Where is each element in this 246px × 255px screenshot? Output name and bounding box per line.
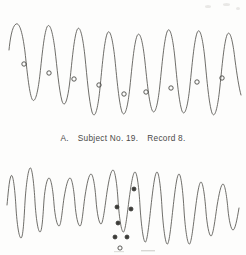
caption-subject: Subject No. 19. bbox=[78, 133, 138, 143]
panel-b-marker-6 bbox=[125, 235, 129, 239]
panel-b-markers bbox=[113, 187, 136, 250]
panel-a-marker-7 bbox=[169, 86, 173, 90]
panel-b-trace-line bbox=[7, 168, 239, 244]
panel-a-marker-1 bbox=[22, 62, 26, 66]
panel-b-marker-1 bbox=[132, 187, 136, 191]
panel-a-marker-8 bbox=[195, 80, 199, 84]
caption-label: A. bbox=[60, 133, 68, 143]
panel-a-marker-3 bbox=[72, 77, 76, 81]
panel-b-marker-4 bbox=[116, 221, 120, 225]
scan-speck bbox=[236, 7, 240, 10]
panel-a-trace-line bbox=[9, 24, 241, 115]
scan-speck bbox=[205, 5, 211, 8]
panel-b-waveform-chart bbox=[0, 150, 246, 255]
panel-a-marker-5 bbox=[122, 92, 126, 96]
panel-b-marker-5 bbox=[113, 235, 117, 239]
panel-a-marker-6 bbox=[144, 90, 148, 94]
caption-space-2 bbox=[138, 133, 147, 143]
panel-b-marker-7 bbox=[118, 246, 122, 250]
panel-b-marker-2 bbox=[115, 205, 119, 209]
panel-b-marker-3 bbox=[129, 207, 133, 211]
figure-root: A. Subject No. 19. Record 8. bbox=[0, 0, 246, 255]
caption-record: Record 8. bbox=[147, 133, 185, 143]
caption-space-1 bbox=[69, 133, 78, 143]
figure-caption: A. Subject No. 19. Record 8. bbox=[0, 133, 246, 143]
scan-speck bbox=[223, 3, 230, 6]
panel-a-marker-2 bbox=[47, 71, 51, 75]
panel-a-waveform-chart bbox=[0, 0, 246, 130]
panel-a-markers bbox=[22, 62, 224, 96]
